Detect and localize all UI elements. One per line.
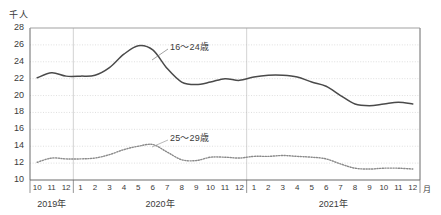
y-tick-16: 16	[4, 123, 24, 133]
year-label-0: 2019年	[22, 197, 82, 210]
gridlines-group	[30, 28, 420, 163]
y-tick-26: 26	[4, 39, 24, 49]
chart-figure: 千人 28262422201816141210 1011121234567891…	[0, 0, 441, 215]
annotation-leader-lines	[152, 49, 168, 147]
y-tick-28: 28	[4, 22, 24, 32]
y-tick-10: 10	[4, 174, 24, 184]
y-tick-14: 14	[4, 140, 24, 150]
year-label-1: 2020年	[130, 197, 190, 210]
y-tick-22: 22	[4, 73, 24, 83]
series-line-1	[37, 46, 413, 106]
x-axis-unit-label: 月	[423, 183, 431, 194]
y-tick-12: 12	[4, 157, 24, 167]
series-paths-group	[37, 46, 413, 169]
y-tick-18: 18	[4, 106, 24, 116]
year-label-2: 2021年	[303, 197, 363, 210]
series-label-16-24: 16～24歳	[170, 40, 209, 53]
series-line-2	[37, 144, 413, 169]
x-tick-26: 12	[405, 183, 421, 192]
y-tick-20: 20	[4, 90, 24, 100]
y-tick-24: 24	[4, 56, 24, 66]
series-label-25-29: 25～29歳	[170, 131, 209, 144]
